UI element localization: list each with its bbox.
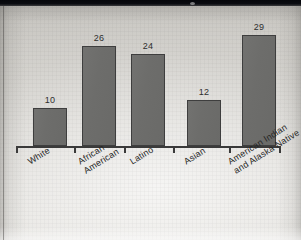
- value-label-latino: 24: [131, 41, 165, 51]
- bar-african-american: [82, 46, 116, 146]
- category-label-asian-line1: Asian: [182, 146, 207, 167]
- value-label-asian: 12: [187, 87, 221, 97]
- plot-area: 10 26 24 12 29 White African American La…: [0, 0, 301, 240]
- x-axis-left-cap: [16, 146, 18, 153]
- bar-white: [33, 108, 67, 146]
- bar-latino: [131, 54, 165, 146]
- value-label-white: 10: [33, 95, 67, 105]
- bar-asian: [187, 100, 221, 146]
- x-axis-tick-3: [173, 147, 175, 153]
- value-label-american-indian-alaska-native: 29: [242, 22, 276, 32]
- x-axis-tick-4: [229, 147, 231, 153]
- category-label-white: White: [26, 145, 52, 167]
- x-axis-tick-2: [124, 147, 126, 153]
- category-label-white-line1: White: [26, 145, 52, 166]
- photo-top-black-band: [0, 0, 301, 6]
- bar-chart: 10 26 24 12 29 White African American La…: [0, 0, 301, 240]
- value-label-african-american: 26: [82, 33, 116, 43]
- top-band-highlight: [190, 2, 195, 5]
- x-axis-tick-1: [74, 147, 76, 153]
- category-label-asian: Asian: [182, 146, 208, 168]
- photographed-chart-page: 10 26 24 12 29 White African American La…: [0, 0, 301, 240]
- page-left-margin-rule: [3, 6, 4, 240]
